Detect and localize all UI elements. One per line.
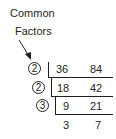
divisor-circle-3: 3 [36,99,49,112]
division-line-3 [55,114,113,115]
divisor-circle-2: 2 [32,81,45,94]
row3-value-b: 21 [87,100,105,112]
row2-value-a: 18 [54,82,72,94]
row3-value-a: 9 [57,100,75,112]
row4-value-b: 7 [89,119,107,131]
division-line-1 [48,77,113,78]
division-line-2 [51,96,113,97]
row2-value-b: 42 [87,82,105,94]
divisor-circle-1: 2 [28,62,41,75]
division-bracket-1 [48,62,49,78]
division-bracket-3 [55,97,56,114]
row1-value-b: 84 [87,63,105,75]
row1-value-a: 36 [53,63,71,75]
division-bracket-2 [51,78,52,96]
row4-value-a: 3 [57,119,75,131]
